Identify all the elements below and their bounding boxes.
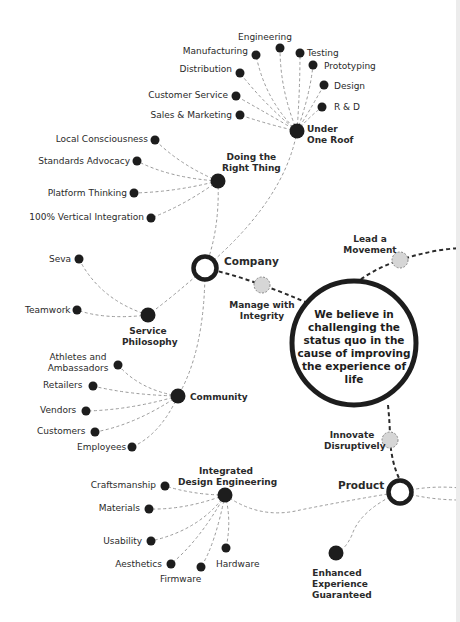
page-edge: [456, 0, 460, 622]
label-vertical-integration: 100% Vertical Integration: [10, 212, 144, 223]
hub-integrated-design: Integrated Design Engineering: [178, 466, 274, 488]
hub-enhanced-experience: Enhanced Experience Guaranteed: [312, 568, 362, 601]
label-testing: Testing: [307, 48, 339, 59]
pillar-product: Product: [338, 480, 384, 491]
hub-community: Community: [190, 392, 248, 403]
label-materials: Materials: [70, 503, 140, 514]
integrity-node: [254, 277, 270, 293]
label-manufacturing: Manufacturing: [170, 46, 248, 57]
hub-service-philosophy: Service Philosophy: [122, 326, 174, 348]
label-employees: Employees: [77, 442, 126, 453]
value-lead-movement: Lead a Movement: [340, 234, 400, 256]
label-standards-advocacy: Standards Advocacy: [20, 156, 130, 167]
label-r-and-d: R & D: [334, 102, 360, 113]
design-dots: [145, 482, 344, 572]
hub-under-one-roof: Under One Roof: [307, 124, 354, 146]
label-craftsmanship: Craftsmanship: [70, 480, 156, 491]
label-athletes: Athletes and Ambassadors: [46, 352, 110, 374]
value-manage-integrity: Manage with Integrity: [224, 300, 300, 322]
label-hardware: Hardware: [216, 559, 259, 570]
label-customer-service: Customer Service: [140, 90, 228, 101]
label-distribution: Distribution: [170, 64, 232, 75]
label-firmware: Firmware: [160, 574, 201, 585]
core-belief-statement: We believe in challenging the status quo…: [296, 308, 412, 386]
value-innovate-disruptively: Innovate Disruptively: [324, 430, 380, 452]
label-customers: Customers: [37, 426, 85, 437]
right-thing-edges: [134, 140, 218, 268]
right-thing-dots: [130, 136, 226, 223]
label-local-consciousness: Local Consciousness: [20, 134, 148, 145]
hub-doing-right-thing: Doing the Right Thing: [222, 152, 281, 174]
label-prototyping: Prototyping: [324, 61, 376, 72]
design-edges: [149, 486, 460, 567]
label-engineering: Engineering: [238, 32, 292, 43]
company-ring: [194, 257, 217, 280]
label-platform-thinking: Platform Thinking: [20, 188, 127, 199]
pillar-company: Company: [224, 256, 279, 267]
label-vendors: Vendors: [40, 405, 76, 416]
product-ring: [389, 481, 412, 504]
label-aesthetics: Aesthetics: [90, 559, 162, 570]
label-design: Design: [334, 81, 365, 92]
label-seva: Seva: [49, 254, 71, 265]
label-teamwork: Teamwork: [25, 305, 71, 316]
label-sales-marketing: Sales & Marketing: [140, 110, 232, 121]
label-usability: Usability: [70, 536, 142, 547]
label-retailers: Retailers: [43, 380, 82, 391]
